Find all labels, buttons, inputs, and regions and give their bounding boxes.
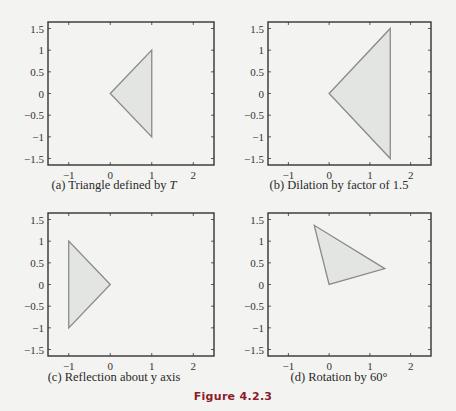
panel-a: −10121.510.50−0.5−1−1.5 (a) Triangle def… [0, 0, 228, 200]
y-tick-label: 1.5 [250, 23, 264, 35]
caption-c: (c) Reflection about y axis [0, 370, 228, 385]
y-tick-label: 1 [39, 44, 45, 56]
y-tick-label: −0.5 [244, 109, 264, 121]
y-tick-label: 0 [39, 279, 45, 291]
y-tick-label: −0.5 [24, 109, 44, 121]
y-tick-label: 1 [259, 235, 265, 247]
caption-a: (a) Triangle defined by T [0, 178, 228, 193]
y-tick-label: −1 [252, 322, 264, 334]
y-tick-label: 1 [39, 235, 45, 247]
figure-title: Figure 4.2.3 [0, 390, 456, 403]
triangle-shape [314, 225, 385, 284]
plot-d: −10121.510.50−0.5−1−1.5 [225, 205, 456, 380]
y-tick-label: −0.5 [24, 300, 44, 312]
y-tick-label: 1 [259, 44, 265, 56]
y-tick-label: −1.5 [244, 344, 264, 356]
y-tick-label: 0 [259, 279, 265, 291]
caption-d: (d) Rotation by 60° [225, 370, 453, 385]
plot-c: −10121.510.50−0.5−1−1.5 [0, 205, 228, 380]
triangle-shape [110, 50, 152, 137]
y-tick-label: 1.5 [30, 214, 44, 226]
y-tick-label: 0.5 [30, 257, 44, 269]
y-tick-label: 0 [259, 88, 265, 100]
y-tick-label: 1.5 [30, 23, 44, 35]
triangle-shape [329, 29, 390, 159]
panel-b: −10121.510.50−0.5−1−1.5 (b) Dilation by … [225, 0, 453, 200]
y-tick-label: 0.5 [250, 66, 264, 78]
y-tick-label: −1 [32, 322, 44, 334]
y-tick-label: 0.5 [250, 257, 264, 269]
y-tick-label: −0.5 [244, 300, 264, 312]
y-tick-label: −1.5 [24, 153, 44, 165]
plot-b: −10121.510.50−0.5−1−1.5 [225, 0, 456, 185]
y-tick-label: −1 [32, 131, 44, 143]
caption-b: (b) Dilation by factor of 1.5 [225, 178, 453, 193]
panel-d: −10121.510.50−0.5−1−1.5 (d) Rotation by … [225, 205, 453, 405]
y-tick-label: 1.5 [250, 214, 264, 226]
triangle-shape [69, 241, 111, 328]
y-tick-label: −1 [252, 131, 264, 143]
panel-c: −10121.510.50−0.5−1−1.5 (c) Reflection a… [0, 205, 228, 405]
y-tick-label: 0.5 [30, 66, 44, 78]
y-tick-label: −1.5 [24, 344, 44, 356]
y-tick-label: 0 [39, 88, 45, 100]
y-tick-label: −1.5 [244, 153, 264, 165]
axes-frame [268, 213, 431, 356]
plot-a: −10121.510.50−0.5−1−1.5 [0, 0, 228, 185]
